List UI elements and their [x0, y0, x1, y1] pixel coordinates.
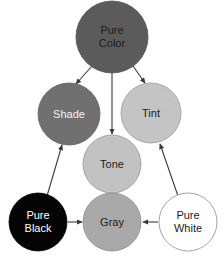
node-label-pure-black-line1: Pure: [26, 209, 49, 221]
arrow-pure-color-to-tint: [133, 66, 145, 83]
arrow-pure-black-to-shade: [47, 145, 62, 196]
node-label-gray: Gray: [100, 216, 124, 228]
node-label-pure-white-line2: White: [174, 222, 202, 234]
node-pure-black[interactable]: PureBlack: [9, 193, 67, 251]
node-pure-color[interactable]: PureColor: [76, 1, 148, 73]
node-label-pure-color-line2: Color: [99, 37, 126, 49]
node-tint[interactable]: Tint: [121, 83, 181, 143]
diagram-canvas: PureColorShadeTintTonePureBlackGrayPureW…: [0, 0, 224, 259]
node-gray[interactable]: Gray: [83, 193, 141, 251]
node-tone[interactable]: Tone: [83, 135, 141, 193]
node-label-tone: Tone: [100, 158, 124, 170]
node-label-pure-black-line2: Black: [25, 222, 52, 234]
node-label-pure-white-line1: Pure: [176, 209, 199, 221]
node-label-shade: Shade: [53, 108, 85, 120]
node-shade[interactable]: Shade: [38, 83, 100, 145]
arrow-pure-color-to-shade: [76, 66, 92, 84]
arrow-pure-white-to-tint: [160, 144, 178, 196]
nodes-layer: PureColorShadeTintTonePureBlackGrayPureW…: [9, 1, 217, 251]
node-label-tint: Tint: [142, 107, 160, 119]
color-theory-diagram: PureColorShadeTintTonePureBlackGrayPureW…: [0, 0, 224, 259]
node-pure-white[interactable]: PureWhite: [159, 193, 217, 251]
node-label-pure-color-line1: Pure: [100, 24, 123, 36]
